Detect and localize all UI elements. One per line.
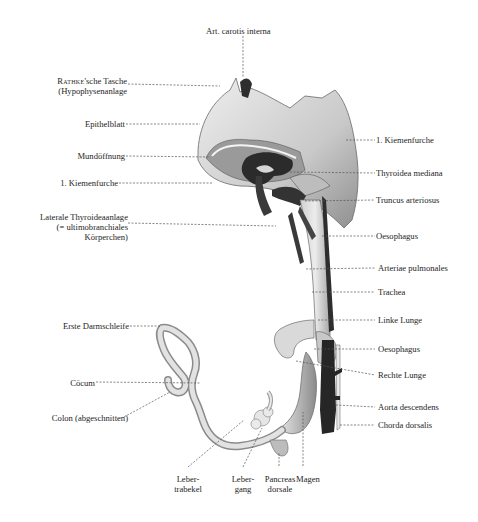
aorta-chorda <box>320 340 342 434</box>
head-region <box>198 78 358 228</box>
label-pancreas-line2: dorsale <box>268 484 293 494</box>
label-oesophagus-lower: Oesophagus <box>378 344 420 354</box>
label-linke-lunge: Linke Lunge <box>378 315 422 325</box>
label-colon: Colon (abgeschnitten) <box>10 413 128 423</box>
label-rathke-rest: 'sche Tasche <box>84 76 127 86</box>
label-arteriae-pulmonales: Arteriae pulmonales <box>378 263 448 273</box>
label-laterale-line3: Körperchen) <box>85 232 128 242</box>
label-pancreas-line1: Pancreas <box>265 474 296 484</box>
label-leber-gang-line2: gang <box>235 484 252 494</box>
label-leber-trabekel-line2: trabekel <box>174 484 202 494</box>
label-rechte-lunge: Rechte Lunge <box>378 370 426 380</box>
label-mundoeffnung: Mundöffnung <box>20 151 125 161</box>
label-kiemenfurche-left: 1. Kiemenfurche <box>20 178 118 188</box>
label-art-carotis-interna: Art. carotis interna <box>206 26 271 36</box>
label-aorta-descendens: Aorta descendens <box>378 402 439 412</box>
label-truncus-arteriosus: Truncus arteriosus <box>376 195 439 205</box>
label-rathke-tasche: Rathke'sche Tasche (Hypophysenanlage <box>20 76 127 96</box>
label-trachea: Trachea <box>378 287 405 297</box>
label-leber-gang-line1: Leber- <box>232 474 255 484</box>
label-laterale-line2: (= ultimobranchiales <box>57 222 128 232</box>
label-thyroidea-mediana: Thyroidea mediana <box>376 168 443 178</box>
label-laterale-thyroideaanlage: Laterale Thyroideaanlage (= ultimobranch… <box>10 212 128 242</box>
label-leber-gang: Leber- gang <box>224 474 262 494</box>
label-rathke-name: Rathke <box>57 76 84 86</box>
stomach <box>280 352 317 434</box>
label-leber-trabekel: Leber- trabekel <box>168 474 208 494</box>
label-oesophagus-upper: Oesophagus <box>376 231 418 241</box>
label-hypophysenanlage: (Hypophysenanlage <box>58 86 127 96</box>
label-coecum: Cöcum <box>20 378 95 388</box>
label-chorda-dorsalis: Chorda dorsalis <box>378 420 432 430</box>
label-epithelblatt: Epithelblatt <box>20 119 125 129</box>
anatomical-figure: Art. carotis interna Rathke'sche Tasche … <box>0 0 478 522</box>
label-magen: Magen <box>296 474 320 484</box>
label-laterale-line1: Laterale Thyroideaanlage <box>40 212 128 222</box>
label-kiemenfurche-right: 1. Kiemenfurche <box>376 135 434 145</box>
label-leber-trabekel-line1: Leber- <box>177 474 200 484</box>
liver-trabeculae <box>251 392 273 429</box>
label-erste-darmschleife: Erste Darmschleife <box>20 321 129 331</box>
